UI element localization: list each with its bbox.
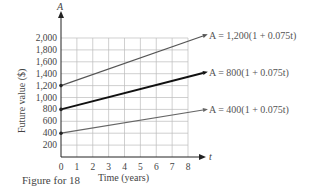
- tick-labels: 0123456782004006008001,0001,2001,4001,60…: [36, 33, 191, 172]
- svg-text:1,000: 1,000: [36, 93, 58, 103]
- chart: 0123456782004006008001,0001,2001,4001,60…: [0, 0, 323, 191]
- svg-text:600: 600: [43, 116, 58, 126]
- figure-caption: Figure for 18: [22, 174, 80, 186]
- data-lines: [59, 34, 208, 135]
- y-axis-arrow-icon: [58, 11, 64, 18]
- svg-text:800: 800: [43, 104, 58, 114]
- svg-text:8: 8: [186, 162, 191, 172]
- x-axis-label: Time (years): [98, 172, 149, 184]
- svg-text:4: 4: [122, 162, 127, 172]
- equation-400: A = 400(1 + 0.075t): [209, 104, 289, 116]
- svg-text:400: 400: [43, 128, 58, 138]
- svg-text:1,800: 1,800: [36, 45, 58, 55]
- svg-text:1,400: 1,400: [36, 69, 58, 79]
- svg-text:7: 7: [170, 162, 175, 172]
- x-axis-arrow-icon: [199, 154, 206, 160]
- svg-text:2: 2: [90, 162, 95, 172]
- x-axis-var: t: [209, 151, 212, 162]
- svg-text:6: 6: [154, 162, 159, 172]
- svg-text:1,200: 1,200: [36, 81, 58, 91]
- equation-1200: A = 1,200(1 + 0.075t): [209, 30, 296, 42]
- grid: [61, 38, 188, 157]
- equation-800: A = 800(1 + 0.075t): [209, 67, 289, 79]
- svg-text:1,600: 1,600: [36, 57, 58, 67]
- y-axis-label: Future value ($): [16, 69, 28, 133]
- svg-text:1: 1: [75, 162, 80, 172]
- svg-text:5: 5: [138, 162, 143, 172]
- svg-text:2,000: 2,000: [36, 33, 58, 43]
- svg-text:3: 3: [106, 162, 111, 172]
- y-axis-var: A: [56, 1, 64, 12]
- svg-text:0: 0: [59, 162, 64, 172]
- svg-text:200: 200: [43, 140, 58, 150]
